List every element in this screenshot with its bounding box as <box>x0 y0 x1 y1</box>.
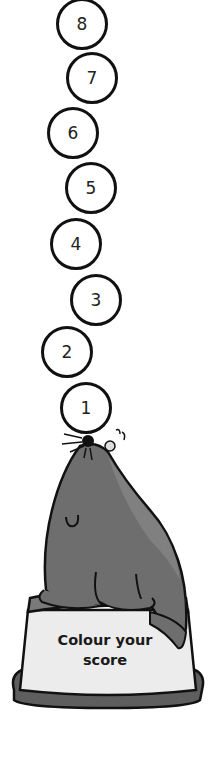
score-ball-8[interactable]: 8 <box>56 0 108 50</box>
score-ball-3[interactable]: 3 <box>70 274 122 326</box>
ball-number: 7 <box>69 70 115 87</box>
pedestal-label-line2: score <box>30 650 180 670</box>
score-ball-4[interactable]: 4 <box>50 218 102 270</box>
nose-icon <box>82 435 94 447</box>
ball-number: 1 <box>63 400 109 417</box>
ball-number: 2 <box>44 344 90 361</box>
score-ball-6[interactable]: 6 <box>47 107 99 159</box>
score-ball-5[interactable]: 5 <box>65 162 117 214</box>
pedestal-label: Colour your score <box>30 630 180 670</box>
score-ball-2[interactable]: 2 <box>41 326 93 378</box>
pedestal-label-line1: Colour your <box>30 630 180 650</box>
ball-number: 6 <box>50 125 96 142</box>
score-ball-1[interactable]: 1 <box>60 382 112 434</box>
score-ball-7[interactable]: 7 <box>66 52 118 104</box>
ball-number: 5 <box>68 180 114 197</box>
ball-number: 4 <box>53 236 99 253</box>
ball-number: 8 <box>59 16 105 33</box>
ball-number: 3 <box>73 292 119 309</box>
score-tracker-illustration: 8 7 6 5 4 3 2 1 Colour your score <box>0 0 214 765</box>
